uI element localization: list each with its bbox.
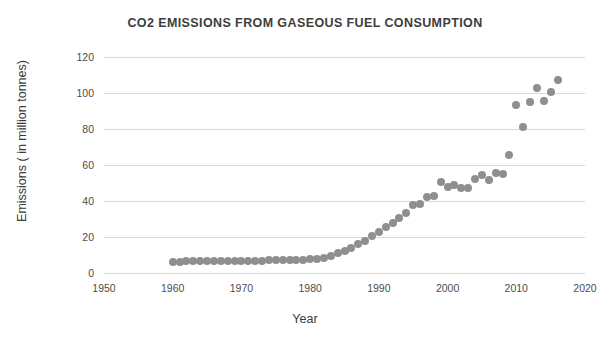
data-point — [505, 151, 513, 159]
x-axis-title: Year — [0, 312, 610, 326]
chart-title: CO2 EMISSIONS FROM GASEOUS FUEL CONSUMPT… — [0, 16, 610, 30]
gridline — [104, 237, 585, 238]
x-tick-label: 1980 — [280, 282, 340, 294]
gridline — [104, 57, 585, 58]
y-tick-label: 120 — [52, 51, 94, 63]
gridline — [104, 93, 585, 94]
x-tick-label: 1970 — [211, 282, 271, 294]
x-tick-label: 1990 — [349, 282, 409, 294]
y-axis-title: Emissions ( in million tonnes) — [15, 0, 29, 343]
data-point — [402, 209, 410, 217]
data-point — [416, 200, 424, 208]
y-tick-label: 40 — [52, 195, 94, 207]
data-point — [430, 192, 438, 200]
y-tick-label: 20 — [52, 231, 94, 243]
data-point — [464, 184, 472, 192]
y-tick-label: 80 — [52, 123, 94, 135]
data-point — [499, 170, 507, 178]
x-tick-label: 2000 — [418, 282, 478, 294]
y-tick-label: 100 — [52, 87, 94, 99]
data-point — [540, 97, 548, 105]
data-point — [485, 176, 493, 184]
gridline — [104, 129, 585, 130]
gridline — [104, 273, 585, 274]
gridline — [104, 165, 585, 166]
gridline — [104, 201, 585, 202]
y-tick-label: 60 — [52, 159, 94, 171]
plot-area — [104, 57, 585, 273]
data-point — [547, 88, 555, 96]
x-tick-label: 2020 — [555, 282, 610, 294]
y-tick-label: 0 — [52, 267, 94, 279]
data-point — [526, 98, 534, 106]
data-point — [512, 101, 520, 109]
x-tick-label: 2010 — [486, 282, 546, 294]
data-point — [554, 76, 562, 84]
data-point — [533, 84, 541, 92]
x-tick-label: 1950 — [74, 282, 134, 294]
x-tick-label: 1960 — [143, 282, 203, 294]
chart-figure: CO2 EMISSIONS FROM GASEOUS FUEL CONSUMPT… — [0, 0, 610, 343]
